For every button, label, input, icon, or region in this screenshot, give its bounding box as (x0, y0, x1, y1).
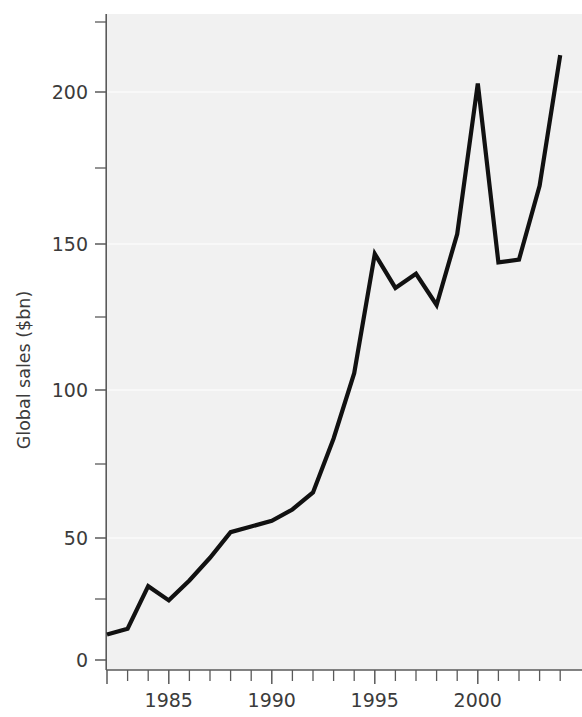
x-tick-label-1985: 1985 (145, 689, 193, 711)
x-axis-ticks (107, 670, 560, 684)
y-tick-label-200: 200 (52, 81, 88, 103)
y-tick-label-100: 100 (52, 379, 88, 401)
y-tick-label-50: 50 (64, 527, 88, 549)
y-axis-title: Global sales ($bn) (14, 291, 34, 450)
line-chart: 0 50 100 150 200 Global sales ($bn) (0, 0, 582, 717)
chart-figure: 0 50 100 150 200 Global sales ($bn) (0, 0, 582, 717)
x-tick-label-1995: 1995 (351, 689, 399, 711)
plot-area-background (107, 14, 582, 670)
y-tick-label-150: 150 (52, 233, 88, 255)
x-tick-label-2000: 2000 (454, 689, 502, 711)
y-tick-label-0: 0 (76, 649, 88, 671)
y-axis-minor-ticks (95, 22, 106, 599)
x-tick-label-1990: 1990 (248, 689, 296, 711)
y-axis-major-ticks (95, 92, 106, 660)
